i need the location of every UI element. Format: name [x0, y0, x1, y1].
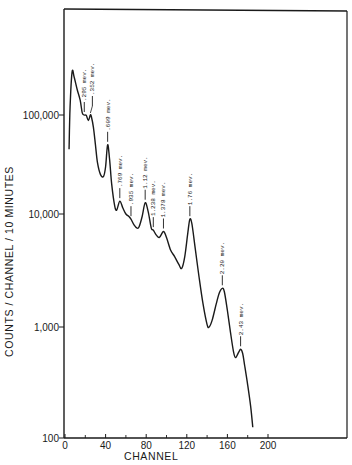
annotations-layer: .295 mev..352 mev..609 mev..769 mev..935… — [81, 63, 244, 347]
x-axis-title: CHANNEL — [124, 450, 178, 462]
x-axis: 04080120160200 — [62, 434, 277, 451]
y-tick-label: 1,000 — [34, 322, 59, 333]
gamma-spectrum-chart: 04080120160200 1001,00010,000100,000 .29… — [0, 0, 352, 465]
peak-annotation: .935 mev. — [128, 173, 135, 205]
x-tick-label: 40 — [100, 440, 112, 451]
x-tick-label: 160 — [219, 440, 236, 451]
peak-annotation: 1.378 mev. — [160, 181, 167, 217]
x-tick-label: 0 — [62, 440, 68, 451]
peak-annotation: 2.43 mev. — [238, 303, 245, 335]
peak-annotation: 2.20 mev. — [219, 242, 226, 274]
annotation-leader — [90, 106, 92, 113]
peak-annotation: .352 mev. — [89, 63, 96, 95]
peak-annotation: 1.76 mev. — [187, 173, 194, 205]
y-tick-label: 100 — [42, 433, 59, 444]
peak-annotation: 1.238 mev. — [150, 180, 157, 216]
peak-annotation: .769 mev. — [117, 155, 124, 187]
frame-top — [64, 9, 347, 11]
y-axis-title: COUNTS / CHANNEL / 10 MINUTES — [3, 166, 15, 357]
peak-annotation: 1.12 mev. — [142, 156, 149, 188]
y-tick-label: 100,000 — [23, 110, 60, 121]
peak-annotation: .295 mev. — [81, 69, 88, 101]
x-tick-label: 120 — [178, 440, 195, 451]
plot-frame — [64, 9, 347, 438]
y-tick-label: 10,000 — [28, 209, 59, 220]
x-tick-label: 200 — [260, 440, 277, 451]
peak-annotation: .609 mev. — [105, 98, 112, 130]
y-axis: 1001,00010,000100,000 — [23, 110, 64, 444]
